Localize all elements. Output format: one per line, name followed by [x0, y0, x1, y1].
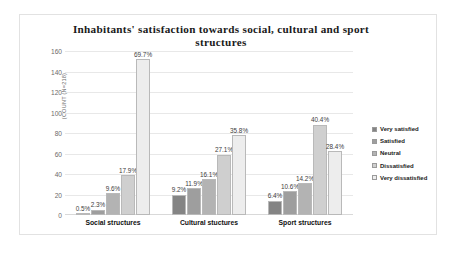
- legend-swatch-icon: [372, 127, 377, 132]
- bar-value-label: 0.5%: [76, 205, 91, 212]
- bar-value-label: 2.3%: [91, 201, 106, 208]
- x-axis-category-label: Sport structures: [257, 219, 353, 226]
- bar-value-label: 10.6%: [281, 183, 299, 190]
- bar-value-label: 9.6%: [106, 185, 121, 192]
- bar[interactable]: [136, 59, 150, 215]
- y-axis-tick-label: 40: [55, 171, 62, 178]
- bar-value-label: 9.2%: [172, 186, 187, 193]
- legend-label: Very dissatisfied: [380, 175, 427, 181]
- bar[interactable]: [91, 210, 105, 215]
- bar-groups: 0.5%2.3%9.6%17.9%69.7%9.2%11.9%16.1%27.1…: [65, 51, 353, 215]
- legend-item[interactable]: Dissatisfied: [372, 160, 456, 172]
- legend-swatch-icon: [372, 175, 377, 180]
- x-axis-labels: Social structuresCultural stucturesSport…: [65, 219, 353, 226]
- bar-value-label: 11.9%: [185, 180, 203, 187]
- chart-container: Inhabitants' satisfaction towards social…: [19, 14, 437, 235]
- bar-slot: 0.5%: [76, 51, 90, 215]
- bar[interactable]: [121, 175, 135, 215]
- legend-swatch-icon: [372, 139, 377, 144]
- bar-value-label: 17.9%: [119, 167, 137, 174]
- bar[interactable]: [298, 183, 312, 215]
- bar-slot: 9.6%: [106, 51, 120, 215]
- y-axis-tick-label: 0: [58, 212, 62, 219]
- x-axis-category-label: Cultural stuctures: [161, 219, 257, 226]
- bar-value-label: 27.1%: [215, 146, 233, 153]
- bar[interactable]: [106, 193, 120, 215]
- bar-slot: 14.2%: [298, 51, 312, 215]
- bar-slot: 69.7%: [136, 51, 150, 215]
- bar[interactable]: [76, 213, 90, 215]
- bar-slot: 17.9%: [121, 51, 135, 215]
- bar-group: 9.2%11.9%16.1%27.1%35.8%: [172, 51, 246, 215]
- legend-label: Neutral: [380, 150, 401, 156]
- bar-slot: 40.4%: [313, 51, 327, 215]
- x-axis-category-label: Social structures: [65, 219, 161, 226]
- legend-label: Satisfied: [380, 138, 405, 144]
- bar-value-label: 40.4%: [311, 116, 329, 123]
- bar-slot: 27.1%: [217, 51, 231, 215]
- bar[interactable]: [232, 135, 246, 215]
- bar-group: 6.4%10.6%14.2%40.4%28.4%: [268, 51, 342, 215]
- y-axis-ticks: 160140120100806040200: [44, 51, 62, 215]
- bar-slot: 16.1%: [202, 51, 216, 215]
- bar-slot: 2.3%: [91, 51, 105, 215]
- bar-slot: 35.8%: [232, 51, 246, 215]
- bar-value-label: 35.8%: [230, 127, 248, 134]
- bar[interactable]: [187, 188, 201, 215]
- bar[interactable]: [268, 201, 282, 215]
- legend-label: Very satisfied: [380, 126, 419, 132]
- chart-legend: Very satisfiedSatisfiedNeutralDissatisfi…: [372, 123, 456, 184]
- legend-item[interactable]: Satisfied: [372, 135, 456, 147]
- bar[interactable]: [313, 125, 327, 215]
- legend-item[interactable]: Very dissatisfied: [372, 172, 456, 184]
- legend-swatch-icon: [372, 163, 377, 168]
- chart-title: Inhabitants' satisfaction towards social…: [56, 23, 386, 49]
- legend-item[interactable]: Neutral: [372, 147, 456, 159]
- bar-value-label: 6.4%: [268, 192, 283, 199]
- bar-value-label: 14.2%: [296, 175, 314, 182]
- bar-slot: 28.4%: [328, 51, 342, 215]
- bar[interactable]: [202, 179, 216, 215]
- bar-slot: 10.6%: [283, 51, 297, 215]
- plot-area: 0.5%2.3%9.6%17.9%69.7%9.2%11.9%16.1%27.1…: [65, 51, 353, 215]
- bar-group: 0.5%2.3%9.6%17.9%69.7%: [76, 51, 150, 215]
- bar[interactable]: [172, 195, 186, 216]
- y-axis-tick-label: 20: [55, 191, 62, 198]
- legend-item[interactable]: Very satisfied: [372, 123, 456, 135]
- bar-slot: 9.2%: [172, 51, 186, 215]
- bar-slot: 6.4%: [268, 51, 282, 215]
- bar-value-label: 28.4%: [326, 143, 344, 150]
- legend-swatch-icon: [372, 151, 377, 156]
- bar[interactable]: [328, 151, 342, 215]
- bar[interactable]: [283, 191, 297, 215]
- bar-slot: 11.9%: [187, 51, 201, 215]
- bar-value-label: 16.1%: [200, 171, 218, 178]
- legend-label: Dissatisfied: [380, 163, 414, 169]
- bar-value-label: 69.7%: [134, 51, 152, 58]
- bar[interactable]: [217, 155, 231, 215]
